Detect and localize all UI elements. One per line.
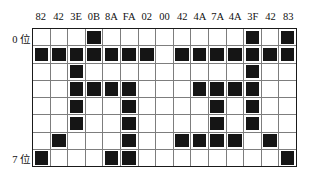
bit-cell-empty (68, 29, 86, 45)
bit-cell-filled (244, 46, 262, 62)
bit-cell-empty (262, 150, 280, 166)
bit-cell-empty (174, 29, 192, 45)
bit-cell-empty (121, 29, 139, 45)
column-header-6: 02 (138, 8, 156, 26)
bit-cell-filled (174, 133, 192, 149)
bit-grid-row (33, 98, 296, 115)
bit-cell-empty (51, 81, 69, 97)
column-header-14: 83 (279, 8, 297, 26)
row-axis-label-first: 0 位 (0, 31, 30, 46)
bit-cell-empty (33, 98, 51, 114)
bit-cell-filled (279, 29, 296, 45)
bit-cell-empty (139, 133, 157, 149)
bit-cell-empty (51, 98, 69, 114)
bit-cell-empty (191, 29, 209, 45)
bit-cell-empty (209, 64, 227, 80)
bit-cell-empty (86, 115, 104, 131)
bit-grid-row (33, 29, 296, 46)
column-header-8: 42 (173, 8, 191, 26)
bit-cell-filled (103, 81, 121, 97)
bit-cell-filled (121, 98, 139, 114)
bit-cell-filled (139, 46, 157, 62)
bit-cell-empty (262, 98, 280, 114)
bit-cell-filled (244, 98, 262, 114)
bit-grid-row (33, 150, 296, 166)
bit-cell-empty (103, 29, 121, 45)
bit-cell-filled (103, 46, 121, 62)
bit-cell-empty (227, 98, 245, 114)
bit-cell-empty (174, 81, 192, 97)
bit-cell-empty (174, 150, 192, 166)
bit-cell-filled (121, 81, 139, 97)
column-header-12: 3F (244, 8, 262, 26)
bit-cell-empty (227, 115, 245, 131)
column-header-7: 00 (156, 8, 174, 26)
bit-cell-filled (68, 81, 86, 97)
bit-pattern-figure: 82 42 3E 0B 8A FA 02 00 42 4A 7A 4A 3F 4… (0, 0, 312, 180)
bit-cell-empty (86, 64, 104, 80)
bit-cell-empty (86, 98, 104, 114)
bit-cell-empty (209, 150, 227, 166)
bit-cell-empty (139, 64, 157, 80)
bit-cell-filled (279, 150, 296, 166)
bit-cell-empty (103, 98, 121, 114)
bit-cell-empty (103, 133, 121, 149)
column-header-10: 7A (209, 8, 227, 26)
bit-cell-empty (244, 150, 262, 166)
bit-cell-filled (121, 133, 139, 149)
bit-cell-empty (139, 115, 157, 131)
bit-cell-filled (279, 46, 296, 62)
column-header-4: 8A (103, 8, 121, 26)
bit-cell-filled (121, 115, 139, 131)
bit-cell-empty (227, 29, 245, 45)
bit-cell-empty (279, 115, 296, 131)
bit-cell-empty (51, 115, 69, 131)
bit-cell-filled (86, 46, 104, 62)
bit-cell-empty (156, 64, 174, 80)
bit-cell-empty (51, 29, 69, 45)
bit-cell-empty (68, 133, 86, 149)
bit-cell-filled (191, 133, 209, 149)
bit-cell-empty (86, 150, 104, 166)
bit-cell-filled (86, 81, 104, 97)
bit-cell-empty (262, 64, 280, 80)
column-header-9: 4A (191, 8, 209, 26)
bit-cell-filled (51, 133, 69, 149)
bit-cell-empty (174, 98, 192, 114)
bit-cell-filled (33, 150, 51, 166)
bit-cell-empty (156, 29, 174, 45)
bit-cell-empty (156, 150, 174, 166)
bit-cell-empty (156, 133, 174, 149)
bit-cell-filled (209, 98, 227, 114)
bit-cell-empty (262, 29, 280, 45)
bit-cell-empty (121, 64, 139, 80)
bit-cell-empty (103, 64, 121, 80)
bit-cell-filled (244, 115, 262, 131)
column-header-3: 0B (85, 8, 103, 26)
bit-cell-empty (191, 64, 209, 80)
bit-cell-filled (244, 29, 262, 45)
column-header-2: 3E (67, 8, 85, 26)
bit-cell-filled (209, 133, 227, 149)
bit-cell-empty (68, 150, 86, 166)
bit-cell-empty (33, 133, 51, 149)
bit-cell-empty (33, 29, 51, 45)
bit-cell-filled (227, 133, 245, 149)
bit-cell-empty (139, 29, 157, 45)
bit-cell-filled (33, 46, 51, 62)
bit-cell-empty (191, 98, 209, 114)
bit-cell-empty (51, 64, 69, 80)
bit-cell-empty (33, 64, 51, 80)
bit-cell-filled (209, 115, 227, 131)
bit-cell-filled (227, 81, 245, 97)
bit-cell-filled (51, 46, 69, 62)
bit-cell-empty (174, 64, 192, 80)
bit-cell-empty (227, 64, 245, 80)
bit-cell-empty (262, 115, 280, 131)
bit-cell-filled (68, 46, 86, 62)
bit-cell-filled (68, 115, 86, 131)
bit-cell-filled (68, 64, 86, 80)
bit-grid-row (33, 133, 296, 150)
column-header-13: 42 (262, 8, 280, 26)
row-axis-label-last: 7 位 (0, 151, 30, 166)
